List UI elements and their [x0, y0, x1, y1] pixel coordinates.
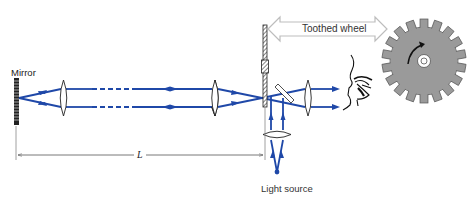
eye-icon [343, 55, 372, 110]
mirror-label: Mirror [11, 67, 36, 78]
lens-1 [60, 80, 67, 116]
mirror [14, 78, 19, 125]
lens-3 [305, 80, 312, 116]
beam-splitter [275, 84, 294, 103]
toothed-wheel-label: Toothed wheel [302, 23, 367, 34]
light-source-label: Light source [261, 183, 313, 194]
beam-arrows [38, 86, 340, 158]
fizeau-apparatus-diagram [0, 0, 469, 205]
toothed-wheel-side-view [262, 25, 269, 107]
light-source-point [275, 170, 280, 175]
toothed-wheel-icon [382, 19, 466, 103]
distance-label: L [134, 149, 146, 160]
lens-light-source [263, 131, 291, 138]
